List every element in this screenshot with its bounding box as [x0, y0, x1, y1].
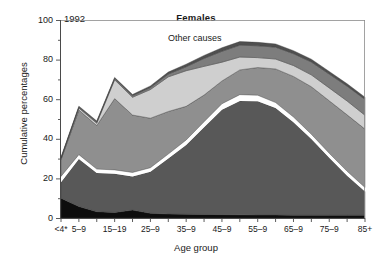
y-tick-label-40: 40 — [27, 134, 53, 143]
y-tick-label-0: 0 — [27, 214, 53, 223]
x-tick-label-3: 15–19 — [95, 225, 135, 234]
x-tick-label-5: 25–9 — [130, 225, 170, 234]
x-tick-label-17: 85+ — [345, 225, 385, 234]
stacked-area-bands — [61, 42, 365, 218]
y-tick-label-20: 20 — [27, 174, 53, 183]
x-tick-label-13: 65–9 — [273, 225, 313, 234]
x-tick-label-15: 75–9 — [309, 225, 349, 234]
y-tick-label-60: 60 — [27, 95, 53, 104]
chart-container: 1992 Females Other causes Age group Cumu… — [0, 0, 392, 263]
x-tick-label-11: 55–9 — [238, 225, 278, 234]
y-tick-label-100: 100 — [27, 16, 53, 25]
x-tick-label-1: 5–9 — [59, 225, 99, 234]
y-tick-label-80: 80 — [27, 55, 53, 64]
x-tick-label-9: 45–9 — [202, 225, 242, 234]
x-tick-label-7: 35–9 — [166, 225, 206, 234]
